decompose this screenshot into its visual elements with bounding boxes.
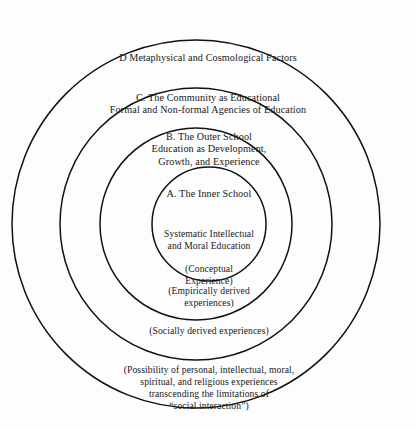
band-label-c: C. The Community as Educational Formal a… [58,92,358,117]
band-note-b: (Empirically derived experiences) [114,285,304,308]
band-note-d: (Possibility of personal, intellectual, … [78,364,340,412]
band-note-c: (Socially derived experiences) [98,325,320,337]
band-label-b: B. The Outer School Education as Develop… [98,131,320,168]
concentric-circles-diagram: D Metaphysical and Cosmological Factors … [0,0,417,430]
band-label-a: A. The Inner School [139,188,279,200]
band-note-a: Systematic Intellectual and Moral Educat… [144,228,274,287]
band-label-d: D Metaphysical and Cosmological Factors [88,52,328,64]
ring-circle-c [60,88,332,360]
